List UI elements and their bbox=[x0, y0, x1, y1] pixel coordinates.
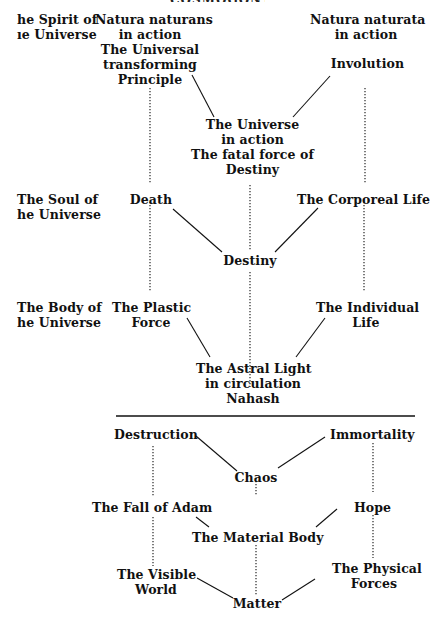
node-material-body: The Material Body bbox=[192, 530, 317, 545]
row-label-spirit: he Spirit ofıe Universe bbox=[17, 12, 97, 42]
connector-physical-to-matter bbox=[282, 579, 315, 600]
node-death: Death bbox=[128, 192, 174, 207]
connector-hope-to-material bbox=[316, 509, 337, 527]
row-label-soul: The Soul ofhe Universe bbox=[17, 192, 101, 222]
connector-fall-to-material bbox=[196, 517, 209, 527]
node-fall-of-adam: The Fall of Adam bbox=[92, 500, 210, 515]
connector-corporeal-to-destiny bbox=[275, 208, 318, 252]
node-chaos: Chaos bbox=[231, 470, 281, 485]
node-astral-light: The Astral Light in circulation Nahash bbox=[196, 361, 310, 406]
node-plastic-force: The PlasticForce bbox=[112, 300, 190, 330]
node-natura-naturans: Natura naturans in action The Universal … bbox=[95, 12, 205, 87]
node-matter: Matter bbox=[231, 596, 283, 611]
node-corporeal-life: The Corporeal Life bbox=[297, 192, 417, 207]
connector-visible-to-matter bbox=[197, 578, 233, 598]
connector-immortality-to-chaos bbox=[278, 437, 325, 468]
node-universe-in-action: The Universe in action The fatal force o… bbox=[190, 117, 315, 177]
node-physical-forces: The PhysicalForces bbox=[332, 561, 416, 591]
node-visible-world: The VisibleWorld bbox=[117, 567, 195, 597]
node-destruction: Destruction bbox=[114, 427, 194, 442]
node-natura-naturata: Natura naturata in action bbox=[310, 12, 422, 42]
row-label-body: The Body ofhe Universe bbox=[17, 300, 102, 330]
connector-destruction-to-chaos bbox=[196, 436, 237, 471]
node-immortality: Immortality bbox=[330, 427, 410, 442]
node-destiny: Destiny bbox=[220, 253, 280, 268]
node-involution: Involution bbox=[320, 56, 415, 71]
node-hope: Hope bbox=[350, 500, 395, 515]
connector-involution-to-universe bbox=[293, 76, 330, 117]
connector-death-to-destiny bbox=[173, 209, 222, 252]
node-individual-life: The IndividualLife bbox=[316, 300, 416, 330]
connector-plastic-to-astral bbox=[187, 318, 210, 357]
